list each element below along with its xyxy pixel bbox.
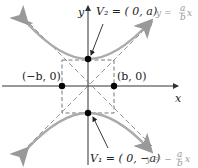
b-label: (b, 0) <box>117 70 147 83</box>
svg-text:x: x <box>187 8 192 18</box>
svg-text:y = −: y = − <box>145 154 172 164</box>
x-axis-label: x <box>175 92 182 105</box>
svg-text:b: b <box>177 158 183 168</box>
hyperbola-diagram: y x V₂ = ( 0, a) V₁ = ( 0, −a) (−b, 0) (… <box>0 0 198 168</box>
svg-text:x: x <box>185 154 190 164</box>
v2-pointer <box>91 24 103 55</box>
vertex-v2-dot <box>85 56 91 62</box>
neg-b-label: (−b, 0) <box>22 70 61 83</box>
asymptote-positive-label: y = a b x <box>155 3 192 22</box>
v2-label: V₂ = ( 0, a) <box>96 5 157 18</box>
svg-text:b: b <box>180 12 186 22</box>
point-b-dot <box>111 83 117 89</box>
y-axis-label: y <box>77 6 85 19</box>
v1-pointer <box>93 117 108 148</box>
vertex-v1-dot <box>85 110 91 116</box>
point-neg-b-dot <box>59 83 65 89</box>
svg-text:y =: y = <box>155 8 172 18</box>
